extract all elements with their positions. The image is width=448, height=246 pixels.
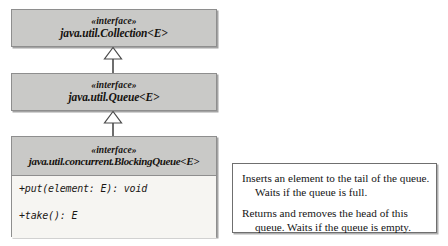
- uml-class-blockingqueue-header: «interface» java.util.concurrent.Blockin…: [12, 137, 216, 175]
- uml-note[interactable]: Inserts an element to the tail of the qu…: [232, 163, 437, 233]
- uml-class-queue-header: «interface» java.util.Queue<E>: [12, 74, 216, 110]
- uml-class-collection[interactable]: «interface» java.util.Collection<E>: [11, 9, 217, 47]
- uml-class-blockingqueue[interactable]: «interface» java.util.concurrent.Blockin…: [11, 136, 217, 237]
- uml-class-blockingqueue-name: java.util.concurrent.BlockingQueue<E>: [29, 155, 199, 167]
- generalization-arrowhead-icon: [105, 48, 122, 60]
- uml-note-paragraph-take: Returns and removes the head of this que…: [242, 206, 430, 235]
- uml-class-queue[interactable]: «interface» java.util.Queue<E>: [11, 73, 217, 111]
- uml-class-collection-name: java.util.Collection<E>: [60, 27, 167, 40]
- uml-member-take: +take(): E: [19, 210, 216, 221]
- uml-class-collection-stereotype: «interface»: [91, 16, 136, 27]
- uml-note-paragraph-put: Inserts an element to the tail of the qu…: [242, 171, 430, 200]
- generalization-arrowhead-icon: [105, 112, 122, 124]
- uml-class-blockingqueue-stereotype: «interface»: [91, 145, 136, 156]
- uml-class-queue-name: java.util.Queue<E>: [69, 91, 160, 104]
- generalization-blockingqueue-to-queue: [101, 111, 125, 137]
- uml-diagram-canvas: «interface» java.util.Collection<E> «int…: [0, 0, 448, 246]
- uml-member-put: +put(element: E): void: [19, 183, 216, 194]
- uml-class-blockingqueue-members: +put(element: E): void +take(): E: [12, 175, 216, 238]
- generalization-queue-to-collection: [101, 47, 125, 73]
- uml-class-collection-header: «interface» java.util.Collection<E>: [12, 10, 216, 46]
- uml-class-queue-stereotype: «interface»: [91, 80, 136, 91]
